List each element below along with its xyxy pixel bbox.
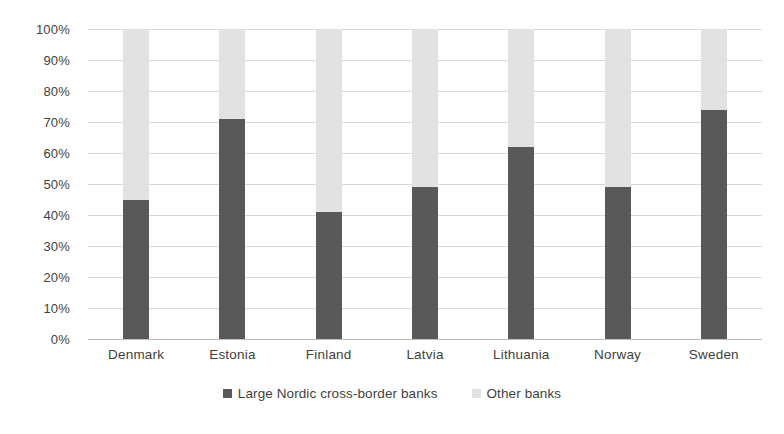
y-axis-tick-label: 40% [43, 208, 70, 223]
x-axis-tick-label: Latvia [406, 347, 443, 362]
x-axis: DenmarkEstoniaFinlandLatviaLithuaniaNorw… [88, 347, 762, 373]
legend-swatch-icon [223, 389, 232, 398]
bar-segment[interactable] [123, 200, 149, 340]
bar-group[interactable] [123, 29, 149, 339]
bar-segment[interactable] [412, 29, 438, 187]
x-axis-tick-label: Finland [306, 347, 352, 362]
bar-group[interactable] [701, 29, 727, 339]
legend-item[interactable]: Other banks [472, 386, 562, 401]
y-axis-tick-label: 100% [36, 22, 70, 37]
y-axis-tick-label: 80% [43, 84, 70, 99]
y-axis-tick-label: 10% [43, 301, 70, 316]
bar-segment[interactable] [316, 29, 342, 212]
legend-label: Other banks [487, 386, 562, 401]
bar-segment[interactable] [605, 29, 631, 187]
legend-swatch-icon [472, 389, 481, 398]
bar-segment[interactable] [701, 110, 727, 339]
y-axis-tick-label: 70% [43, 115, 70, 130]
y-axis: 0%10%20%30%40%50%60%70%80%90%100% [0, 29, 80, 339]
bars-layer [88, 29, 762, 339]
y-axis-tick-label: 20% [43, 270, 70, 285]
bar-segment[interactable] [219, 119, 245, 339]
bar-segment[interactable] [508, 147, 534, 339]
bar-group[interactable] [219, 29, 245, 339]
bar-segment[interactable] [412, 187, 438, 339]
y-axis-tick-label: 60% [43, 146, 70, 161]
legend-item[interactable]: Large Nordic cross-border banks [223, 386, 438, 401]
legend-label: Large Nordic cross-border banks [238, 386, 438, 401]
x-axis-tick-label: Lithuania [493, 347, 550, 362]
y-axis-tick-label: 30% [43, 239, 70, 254]
bar-segment[interactable] [605, 187, 631, 339]
x-axis-tick-label: Sweden [689, 347, 739, 362]
bar-segment[interactable] [701, 29, 727, 110]
bar-group[interactable] [605, 29, 631, 339]
x-axis-tick-label: Norway [594, 347, 641, 362]
bar-group[interactable] [508, 29, 534, 339]
y-axis-tick-label: 90% [43, 53, 70, 68]
y-axis-tick-label: 50% [43, 177, 70, 192]
bar-segment[interactable] [219, 29, 245, 119]
gridline [88, 339, 762, 340]
bar-segment[interactable] [508, 29, 534, 147]
bar-segment[interactable] [316, 212, 342, 339]
bar-group[interactable] [316, 29, 342, 339]
y-axis-tick-label: 0% [51, 332, 70, 347]
x-axis-tick-label: Denmark [108, 347, 164, 362]
chart-legend: Large Nordic cross-border banksOther ban… [0, 386, 784, 401]
bar-group[interactable] [412, 29, 438, 339]
bar-segment[interactable] [123, 29, 149, 200]
stacked-bar-chart: 0%10%20%30%40%50%60%70%80%90%100% Denmar… [0, 0, 784, 434]
x-axis-tick-label: Estonia [209, 347, 255, 362]
